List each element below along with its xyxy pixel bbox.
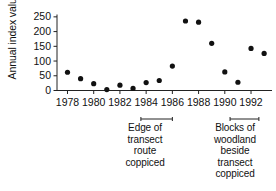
annotation-line: woodland — [196, 134, 274, 146]
x-tick-label: 1978 — [56, 96, 80, 108]
data-point — [91, 81, 96, 86]
annotation-bracket-group — [141, 117, 259, 121]
x-tick-label: 1980 — [82, 96, 106, 108]
y-axis-tick-group: 050100150200250 — [33, 10, 57, 96]
data-point — [144, 80, 149, 85]
data-point — [78, 76, 83, 81]
annotation-line: Blocks of — [196, 122, 274, 134]
annotation-left: Edge oftransectroutecoppiced — [107, 122, 183, 168]
x-tick-label: 1990 — [213, 96, 237, 108]
annotation-line: transect — [107, 134, 183, 146]
annotation-line: coppiced — [196, 168, 274, 180]
annotation-bracket-right — [230, 117, 259, 121]
data-point — [183, 18, 188, 23]
x-tick-label: 1984 — [134, 96, 158, 108]
y-tick-label: 50 — [39, 69, 51, 81]
y-tick-label: 250 — [33, 10, 51, 22]
x-tick-label: 1988 — [187, 96, 211, 108]
y-tick-label: 150 — [33, 40, 51, 52]
x-axis-tick-group: 19781980198219841986198819901992 — [56, 91, 263, 108]
annotation-bracket-left — [141, 117, 172, 121]
data-point-group — [65, 18, 267, 92]
data-point — [248, 46, 253, 51]
annotation-line: route — [107, 145, 183, 157]
data-point — [209, 41, 214, 46]
x-tick-label: 1986 — [161, 96, 185, 108]
data-point — [262, 51, 267, 56]
x-tick-label: 1982 — [108, 96, 132, 108]
data-point — [235, 80, 240, 85]
data-point — [196, 20, 201, 25]
data-point — [157, 78, 162, 83]
annotation-line: beside — [196, 145, 274, 157]
annotation-right: Blocks ofwoodlandbesidetransectcoppiced — [196, 122, 274, 180]
data-point — [65, 70, 70, 75]
data-point — [130, 86, 135, 91]
annotation-line: Edge of — [107, 122, 183, 134]
y-tick-label: 200 — [33, 25, 51, 37]
chart-figure: Annual index value 050100150200250 19781… — [0, 0, 276, 191]
data-point — [104, 87, 109, 92]
y-tick-label: 0 — [45, 84, 51, 96]
x-tick-label: 1992 — [239, 96, 263, 108]
data-point — [117, 83, 122, 88]
data-point — [222, 69, 227, 74]
y-tick-label: 100 — [33, 55, 51, 67]
annotation-line: transect — [196, 157, 274, 169]
data-point — [170, 63, 175, 68]
annotation-line: coppiced — [107, 157, 183, 169]
